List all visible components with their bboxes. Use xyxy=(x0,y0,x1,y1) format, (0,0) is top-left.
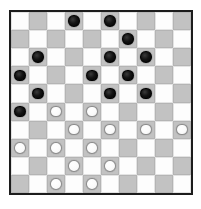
board-square-r4c9[interactable] xyxy=(173,84,191,102)
board-square-r7c2[interactable] xyxy=(47,139,65,157)
board-square-r4c5[interactable] xyxy=(101,84,119,102)
black-piece[interactable] xyxy=(68,15,80,27)
board-square-r6c7[interactable] xyxy=(137,121,155,139)
board-square-r4c8[interactable] xyxy=(155,84,173,102)
board-square-r9c7[interactable] xyxy=(137,175,155,193)
board-square-r3c8[interactable] xyxy=(155,66,173,84)
board-square-r0c8[interactable] xyxy=(155,12,173,30)
white-piece[interactable] xyxy=(86,106,98,118)
black-piece[interactable] xyxy=(86,70,98,82)
board-square-r3c7[interactable] xyxy=(137,66,155,84)
board-square-r0c7[interactable] xyxy=(137,12,155,30)
board-grid[interactable] xyxy=(11,12,191,193)
board-square-r8c4[interactable] xyxy=(83,157,101,175)
board-square-r4c6[interactable] xyxy=(119,84,137,102)
board-square-r6c1[interactable] xyxy=(29,121,47,139)
board-square-r9c1[interactable] xyxy=(29,175,47,193)
board-square-r4c7[interactable] xyxy=(137,84,155,102)
board-square-r1c9[interactable] xyxy=(173,30,191,48)
board-square-r0c9[interactable] xyxy=(173,12,191,30)
board-square-r8c7[interactable] xyxy=(137,157,155,175)
board-square-r0c4[interactable] xyxy=(83,12,101,30)
board-square-r5c4[interactable] xyxy=(83,103,101,121)
white-piece[interactable] xyxy=(50,178,62,190)
board-square-r2c6[interactable] xyxy=(119,48,137,66)
white-piece[interactable] xyxy=(68,124,80,136)
board-square-r9c8[interactable] xyxy=(155,175,173,193)
black-piece[interactable] xyxy=(32,51,44,63)
board-square-r5c1[interactable] xyxy=(29,103,47,121)
board-square-r8c2[interactable] xyxy=(47,157,65,175)
board-square-r3c1[interactable] xyxy=(29,66,47,84)
board-square-r9c5[interactable] xyxy=(101,175,119,193)
board-square-r0c2[interactable] xyxy=(47,12,65,30)
board-square-r8c1[interactable] xyxy=(29,157,47,175)
board-square-r1c7[interactable] xyxy=(137,30,155,48)
board-square-r3c3[interactable] xyxy=(65,66,83,84)
black-piece[interactable] xyxy=(140,88,152,100)
board-square-r1c4[interactable] xyxy=(83,30,101,48)
white-piece[interactable] xyxy=(86,178,98,190)
board-square-r8c0[interactable] xyxy=(11,157,29,175)
black-piece[interactable] xyxy=(14,106,26,118)
board-square-r9c2[interactable] xyxy=(47,175,65,193)
board-square-r0c0[interactable] xyxy=(11,12,29,30)
board-square-r7c4[interactable] xyxy=(83,139,101,157)
black-piece[interactable] xyxy=(140,51,152,63)
board-square-r1c6[interactable] xyxy=(119,30,137,48)
board-square-r2c5[interactable] xyxy=(101,48,119,66)
board-square-r8c6[interactable] xyxy=(119,157,137,175)
board-square-r8c9[interactable] xyxy=(173,157,191,175)
board-square-r5c3[interactable] xyxy=(65,103,83,121)
black-piece[interactable] xyxy=(122,33,134,45)
white-piece[interactable] xyxy=(14,142,26,154)
board-square-r5c5[interactable] xyxy=(101,103,119,121)
board-square-r3c2[interactable] xyxy=(47,66,65,84)
board-square-r2c7[interactable] xyxy=(137,48,155,66)
board-square-r6c6[interactable] xyxy=(119,121,137,139)
white-piece[interactable] xyxy=(140,124,152,136)
board-square-r1c5[interactable] xyxy=(101,30,119,48)
board-square-r5c9[interactable] xyxy=(173,103,191,121)
board-square-r1c3[interactable] xyxy=(65,30,83,48)
board-square-r2c3[interactable] xyxy=(65,48,83,66)
board-square-r9c9[interactable] xyxy=(173,175,191,193)
board-square-r3c4[interactable] xyxy=(83,66,101,84)
board-square-r3c5[interactable] xyxy=(101,66,119,84)
board-square-r5c2[interactable] xyxy=(47,103,65,121)
board-square-r6c2[interactable] xyxy=(47,121,65,139)
white-piece[interactable] xyxy=(68,160,80,172)
board-square-r4c3[interactable] xyxy=(65,84,83,102)
black-piece[interactable] xyxy=(122,70,134,82)
board-square-r6c8[interactable] xyxy=(155,121,173,139)
black-piece[interactable] xyxy=(104,51,116,63)
white-piece[interactable] xyxy=(86,142,98,154)
board-square-r0c6[interactable] xyxy=(119,12,137,30)
white-piece[interactable] xyxy=(104,124,116,136)
board-square-r7c1[interactable] xyxy=(29,139,47,157)
white-piece[interactable] xyxy=(50,142,62,154)
board-square-r7c8[interactable] xyxy=(155,139,173,157)
black-piece[interactable] xyxy=(104,15,116,27)
board-square-r7c7[interactable] xyxy=(137,139,155,157)
white-piece[interactable] xyxy=(176,124,188,136)
black-piece[interactable] xyxy=(14,70,26,82)
board-square-r9c4[interactable] xyxy=(83,175,101,193)
board-square-r0c5[interactable] xyxy=(101,12,119,30)
board-square-r6c3[interactable] xyxy=(65,121,83,139)
board-square-r6c0[interactable] xyxy=(11,121,29,139)
board-square-r5c0[interactable] xyxy=(11,103,29,121)
board-square-r2c0[interactable] xyxy=(11,48,29,66)
board-square-r8c8[interactable] xyxy=(155,157,173,175)
board-square-r8c3[interactable] xyxy=(65,157,83,175)
board-square-r3c6[interactable] xyxy=(119,66,137,84)
board-square-r6c5[interactable] xyxy=(101,121,119,139)
white-piece[interactable] xyxy=(50,106,62,118)
board-square-r3c0[interactable] xyxy=(11,66,29,84)
black-piece[interactable] xyxy=(32,88,44,100)
board-square-r7c0[interactable] xyxy=(11,139,29,157)
board-square-r8c5[interactable] xyxy=(101,157,119,175)
board-square-r1c0[interactable] xyxy=(11,30,29,48)
board-square-r0c1[interactable] xyxy=(29,12,47,30)
board-square-r4c0[interactable] xyxy=(11,84,29,102)
